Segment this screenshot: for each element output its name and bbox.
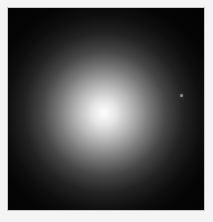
foreground-star xyxy=(180,94,183,97)
astronomical-image xyxy=(8,8,204,210)
